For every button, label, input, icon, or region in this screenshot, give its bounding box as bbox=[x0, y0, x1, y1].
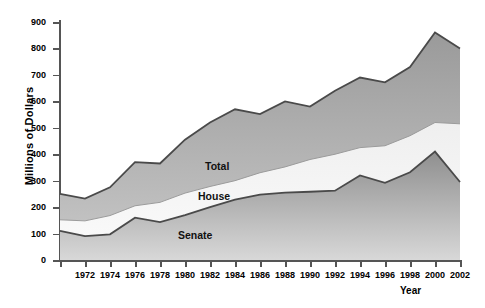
series-label-senate: Senate bbox=[178, 229, 212, 241]
clipped-caption bbox=[118, 299, 418, 308]
series-label-total: Total bbox=[205, 160, 229, 172]
area-chart: Millions of Dollars 01002003004005006007… bbox=[0, 0, 485, 308]
series-label-house: House bbox=[198, 190, 230, 202]
chart-areas bbox=[0, 0, 485, 308]
